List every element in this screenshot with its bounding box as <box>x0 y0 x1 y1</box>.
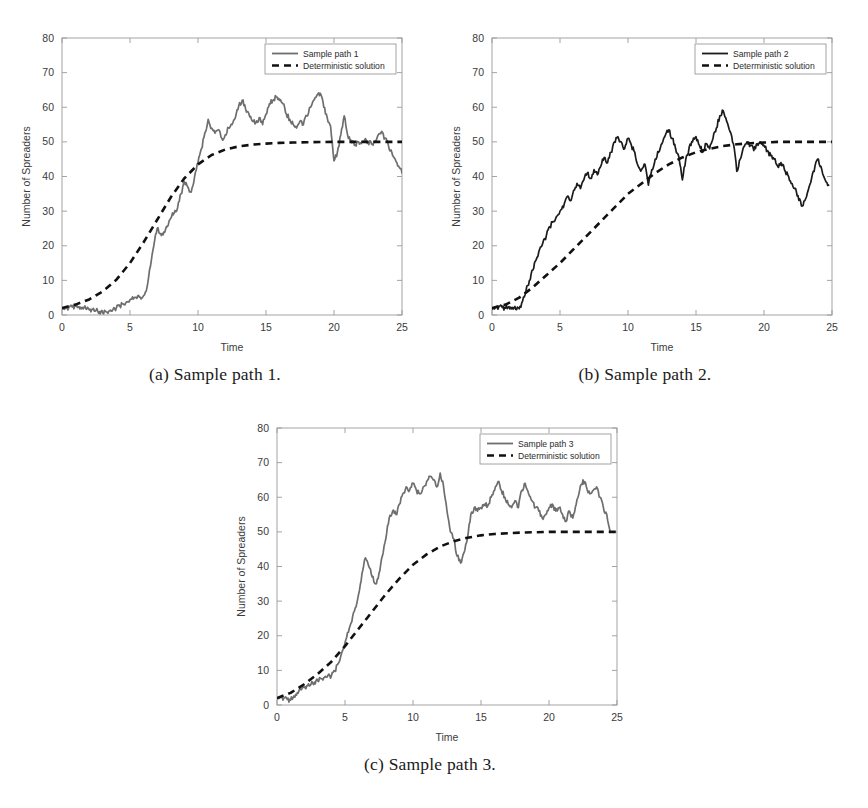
legend-label-sample-path: Sample path 1 <box>303 49 359 59</box>
y-tick-label: 80 <box>42 32 54 44</box>
x-axis-title: Time <box>651 341 674 353</box>
x-tick-label: 0 <box>274 711 280 723</box>
plot-area: 051015202501020304050607080TimeNumber of… <box>215 412 645 752</box>
y-tick-label: 0 <box>263 699 269 711</box>
x-tick-label: 25 <box>611 711 623 723</box>
x-tick-label: 20 <box>543 711 555 723</box>
y-tick-label: 40 <box>257 560 269 572</box>
y-tick-label: 40 <box>42 170 54 182</box>
x-tick-label: 5 <box>557 321 563 333</box>
legend-label-deterministic: Deterministic solution <box>518 451 600 461</box>
y-tick-label: 50 <box>472 135 484 147</box>
plot-box <box>492 38 832 315</box>
panel-caption: (b) Sample path 2. <box>430 364 860 385</box>
y-tick-label: 20 <box>42 239 54 251</box>
y-tick-label: 50 <box>42 135 54 147</box>
chart-panel: 051015202501020304050607080TimeNumber of… <box>0 22 430 394</box>
x-tick-label: 0 <box>489 321 495 333</box>
x-tick-label: 20 <box>758 321 770 333</box>
y-tick-label: 50 <box>257 525 269 537</box>
x-tick-label: 5 <box>342 711 348 723</box>
x-tick-label: 10 <box>407 711 419 723</box>
panel-caption: (a) Sample path 1. <box>0 364 430 385</box>
x-tick-label: 0 <box>59 321 65 333</box>
x-tick-label: 10 <box>192 321 204 333</box>
y-tick-label: 70 <box>42 66 54 78</box>
y-tick-label: 80 <box>472 32 484 44</box>
x-tick-label: 15 <box>475 711 487 723</box>
y-tick-label: 0 <box>478 309 484 321</box>
y-tick-label: 30 <box>472 205 484 217</box>
legend-label-sample-path: Sample path 3 <box>518 439 574 449</box>
x-tick-label: 15 <box>260 321 272 333</box>
y-tick-label: 60 <box>257 491 269 503</box>
y-tick-label: 20 <box>472 239 484 251</box>
x-tick-label: 10 <box>622 321 634 333</box>
y-tick-label: 10 <box>472 274 484 286</box>
x-tick-label: 15 <box>690 321 702 333</box>
y-tick-label: 40 <box>472 170 484 182</box>
y-tick-label: 60 <box>42 101 54 113</box>
chart-panel: 051015202501020304050607080TimeNumber of… <box>430 22 860 394</box>
legend-label-deterministic: Deterministic solution <box>303 61 385 71</box>
x-tick-label: 25 <box>826 321 838 333</box>
y-tick-label: 30 <box>257 595 269 607</box>
y-axis-title: Number of Spreaders <box>235 516 247 616</box>
y-tick-label: 60 <box>472 101 484 113</box>
x-tick-label: 5 <box>127 321 133 333</box>
y-tick-label: 10 <box>257 664 269 676</box>
y-tick-label: 70 <box>472 66 484 78</box>
y-tick-label: 30 <box>42 205 54 217</box>
plot-box <box>62 38 402 315</box>
y-axis-title: Number of Spreaders <box>450 126 462 226</box>
y-tick-label: 80 <box>257 422 269 434</box>
x-tick-label: 20 <box>328 321 340 333</box>
figure-container: 051015202501020304050607080TimeNumber of… <box>0 0 868 808</box>
panel-caption: (c) Sample path 3. <box>215 754 645 775</box>
y-axis-title: Number of Spreaders <box>20 126 32 226</box>
plot-area: 051015202501020304050607080TimeNumber of… <box>430 22 860 362</box>
y-tick-label: 10 <box>42 274 54 286</box>
y-tick-label: 0 <box>48 309 54 321</box>
legend-label-sample-path: Sample path 2 <box>733 49 789 59</box>
plot-area: 051015202501020304050607080TimeNumber of… <box>0 22 430 362</box>
y-tick-label: 20 <box>257 629 269 641</box>
x-tick-label: 25 <box>396 321 408 333</box>
legend-label-deterministic: Deterministic solution <box>733 61 815 71</box>
y-tick-label: 70 <box>257 456 269 468</box>
x-axis-title: Time <box>221 341 244 353</box>
x-axis-title: Time <box>436 731 459 743</box>
chart-panel: 051015202501020304050607080TimeNumber of… <box>215 412 645 784</box>
